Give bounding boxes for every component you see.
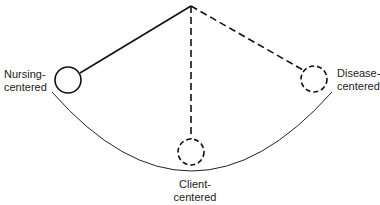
label-line: Nursing- (4, 68, 47, 81)
swing-arc (52, 92, 332, 171)
label-line: centered (337, 80, 380, 93)
client-bob (178, 139, 204, 165)
nursing-centered-label: Nursing- centered (4, 68, 47, 94)
nursing-bob (55, 67, 81, 93)
label-line: centered (173, 191, 217, 204)
disease-centered-label: Disease- centered (337, 67, 380, 93)
disease-string (191, 6, 303, 70)
label-line: centered (4, 81, 47, 94)
label-line: Disease- (337, 67, 380, 80)
client-centered-label: Client- centered (173, 178, 217, 204)
nursing-string (80, 6, 191, 73)
disease-bob (301, 66, 327, 92)
label-line: Client- (173, 178, 217, 191)
